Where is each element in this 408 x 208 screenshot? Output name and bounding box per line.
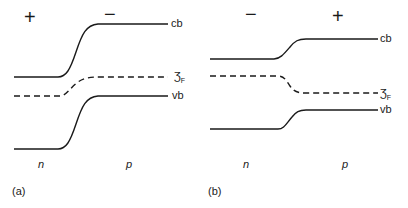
fermi-subscript: F xyxy=(387,94,391,101)
panel-a-cb-label: cb xyxy=(171,18,183,29)
panel-a-plus-sign: + xyxy=(24,7,36,27)
panel-b-p-region-label: p xyxy=(342,159,348,170)
fermi-symbol: Ʒ xyxy=(174,70,181,82)
panel-a-conduction-band xyxy=(14,24,168,77)
panel-b-fermi-level xyxy=(210,76,378,93)
panel-b-minus-sign: − xyxy=(245,4,257,24)
fermi-subscript: F xyxy=(181,77,185,84)
panel-b-plus-sign: + xyxy=(332,6,344,26)
panel-b-curves xyxy=(210,39,378,129)
panel-b-n-region-label: n xyxy=(243,159,249,170)
panel-b-vb-label: vb xyxy=(380,104,392,115)
band-diagram-canvas xyxy=(0,0,408,208)
panel-a-caption: (a) xyxy=(12,186,25,197)
panel-a-curves xyxy=(14,24,168,149)
panel-a-n-region-label: n xyxy=(38,159,44,170)
panel-b-cb-label: cb xyxy=(380,33,392,44)
panel-a-valence-band xyxy=(14,96,168,149)
panel-a-vb-label: vb xyxy=(172,90,184,101)
panel-b-conduction-band xyxy=(210,39,378,59)
panel-a-fermi-label: ƷF xyxy=(174,71,185,84)
panel-a-fermi-level xyxy=(14,77,168,96)
panel-b-valence-band xyxy=(210,110,378,129)
panel-b-fermi-label: ƷF xyxy=(380,88,391,101)
fermi-symbol: Ʒ xyxy=(380,87,387,99)
panel-a-p-region-label: p xyxy=(126,159,132,170)
panel-a-minus-sign: − xyxy=(104,4,116,24)
panel-b-caption: (b) xyxy=(208,186,221,197)
